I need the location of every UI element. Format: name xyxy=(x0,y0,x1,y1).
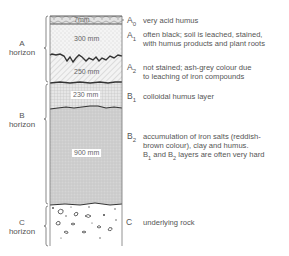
layer-code-c: C xyxy=(126,217,132,227)
layer-desc-b2: accumulation of iron salts (reddish- bro… xyxy=(143,132,264,163)
layer-code-a1: A1 xyxy=(127,30,136,42)
layer-desc-a0: very acid humus xyxy=(143,16,198,25)
thickness-a2: 250 mm xyxy=(72,68,101,76)
horizon-a-label: A horizon xyxy=(2,39,42,57)
layer-desc-a1: often black; soil is leached, stained, w… xyxy=(143,30,265,48)
layer-desc-c: underlying rock xyxy=(143,218,195,227)
thickness-a0: 7mm xyxy=(72,16,92,24)
brace-a xyxy=(44,16,48,82)
layer-code-b2: B2 xyxy=(127,131,136,143)
thickness-a1: 300 mm xyxy=(72,35,101,43)
thickness-b1: 230 mm xyxy=(71,91,100,99)
brace-b xyxy=(44,84,48,204)
brace-c xyxy=(44,206,48,246)
layer-desc-b1: colloidal humus layer xyxy=(143,92,214,101)
layer-code-a0: A0 xyxy=(127,15,136,27)
layer-code-a2: A2 xyxy=(127,62,136,74)
horizon-b-label: B horizon xyxy=(2,111,42,129)
horizon-c-label: C horizon xyxy=(2,218,42,236)
thickness-b2: 900 mm xyxy=(72,149,101,157)
b-layers-note: B1 and B2 layers are often very hard xyxy=(143,150,264,163)
layer-code-b1: B1 xyxy=(127,91,136,103)
layer-desc-a2: not stained; ash-grey colour due to leac… xyxy=(143,63,252,81)
